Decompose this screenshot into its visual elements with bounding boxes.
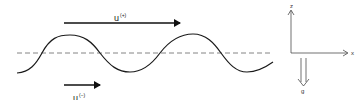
diagram-canvas (0, 0, 363, 100)
z-axis-label: z (290, 3, 293, 9)
lower-flow-label: u(−) (73, 88, 85, 100)
x-axis-label: x (351, 50, 354, 56)
gravity-label: g (301, 88, 304, 94)
upper-flow-label-sup: (+) (120, 12, 126, 18)
upper-flow-label-main: u (114, 13, 119, 23)
gravity-arrowhead-icon (298, 79, 309, 86)
upper-flow-label: u(+) (114, 8, 126, 24)
interface-wave (17, 34, 273, 73)
lower-flow-label-main: u (73, 93, 78, 100)
lower-flow-label-sup: (−) (79, 92, 85, 98)
gravity-arrow (298, 58, 309, 86)
coordinate-axes (288, 10, 348, 56)
